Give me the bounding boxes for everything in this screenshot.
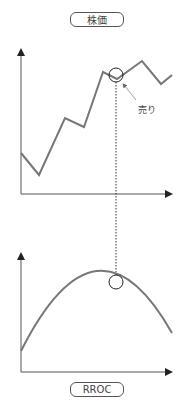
rroc-marker (109, 275, 123, 289)
rroc-label: RROC (70, 382, 124, 397)
stock-price-line (21, 61, 172, 175)
diagram-canvas: 売り (0, 0, 187, 412)
sell-annotation: 売り (138, 104, 156, 115)
sell-annotation-arrow (124, 85, 136, 100)
stock-chart-axes (21, 52, 169, 194)
rroc-curve (21, 271, 172, 351)
